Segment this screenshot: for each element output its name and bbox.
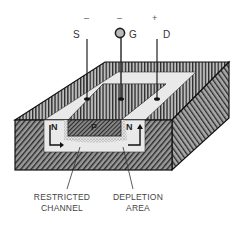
depletion-area-caption: DEPLETION AREA bbox=[108, 192, 168, 214]
gate-contact-icon bbox=[118, 97, 124, 101]
gate-terminal-icon bbox=[115, 28, 124, 37]
drain-n-label: N bbox=[126, 123, 133, 132]
source-label: S bbox=[73, 30, 80, 40]
drain-label: D bbox=[163, 30, 170, 40]
source-contact-icon bbox=[84, 97, 90, 101]
depletion-area-line1: DEPLETION bbox=[108, 192, 168, 203]
restricted-channel-line2: CHANNEL bbox=[30, 203, 94, 214]
source-n-label: N bbox=[51, 123, 58, 132]
source-polarity: – bbox=[84, 14, 89, 23]
gate-polarity: – bbox=[117, 14, 122, 23]
gate-p-label: P bbox=[91, 123, 97, 132]
drain-polarity: + bbox=[152, 14, 157, 23]
depletion-area-line2: AREA bbox=[108, 203, 168, 214]
drain-contact-icon bbox=[154, 97, 160, 101]
restricted-channel-caption: RESTRICTED CHANNEL bbox=[30, 192, 94, 214]
restricted-channel-line1: RESTRICTED bbox=[30, 192, 94, 203]
gate-label: G bbox=[129, 30, 137, 40]
